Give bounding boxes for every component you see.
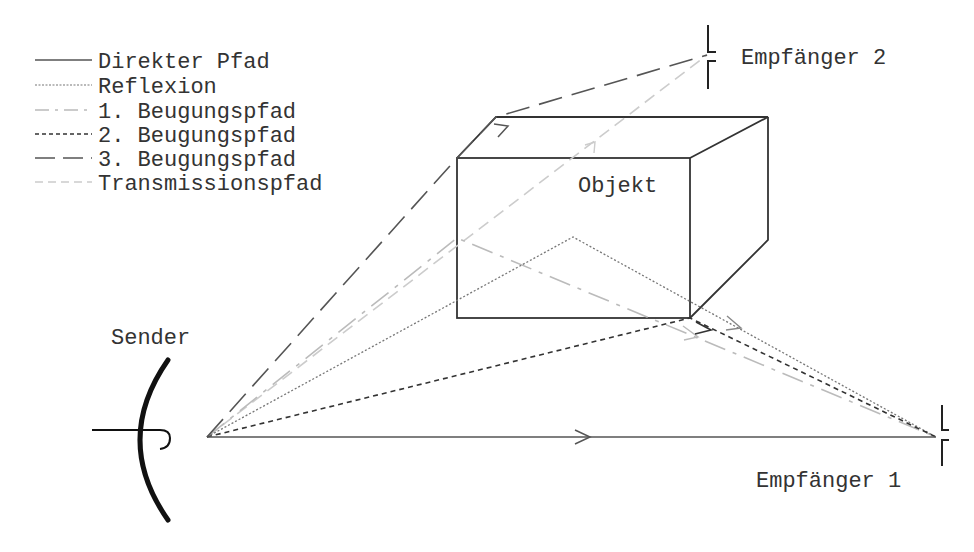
box-top-face — [457, 117, 768, 158]
path-direct — [207, 430, 936, 444]
legend-label: 2. Beugungspfad — [98, 124, 296, 149]
legend-label: 1. Beugungspfad — [98, 100, 296, 125]
sender-label: Sender — [111, 326, 190, 351]
legend-item-diffraction-1: 1. Beugungspfad — [35, 100, 296, 125]
legend-label: Direkter Pfad — [98, 50, 270, 75]
legend-item-transmission: Transmissionspfad — [35, 172, 322, 197]
receiver-2-label: Empfänger 2 — [741, 46, 886, 71]
legend-item-reflection: Reflexion — [35, 75, 217, 100]
object-label: Objekt — [578, 174, 657, 199]
legend-item-diffraction-3: 3. Beugungspfad — [35, 148, 296, 173]
receiver-1-icon — [942, 405, 949, 466]
path-diffraction-1 — [207, 238, 936, 437]
arrow-head-icon — [726, 316, 741, 330]
legend: Direkter Pfad Reflexion 1. Beugungspfad … — [35, 50, 322, 197]
arrow-head-icon — [695, 322, 711, 334]
arrow-head-icon — [494, 124, 508, 137]
receiver-2-icon — [708, 25, 716, 89]
box-side-face — [690, 117, 768, 318]
legend-item-direct: Direkter Pfad — [35, 50, 270, 75]
legend-label: 3. Beugungspfad — [98, 148, 296, 173]
legend-label: Transmissionspfad — [98, 172, 322, 197]
sender-antenna-icon — [92, 360, 170, 520]
receiver-1-label: Empfänger 1 — [756, 469, 901, 494]
object-box — [457, 117, 768, 318]
legend-item-diffraction-2: 2. Beugungspfad — [35, 124, 296, 149]
propagation-diagram: Direkter Pfad Reflexion 1. Beugungspfad … — [0, 0, 974, 552]
legend-label: Reflexion — [98, 75, 217, 100]
path-reflection — [207, 237, 936, 437]
